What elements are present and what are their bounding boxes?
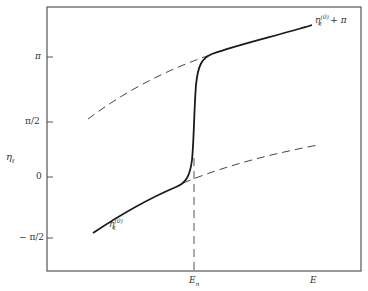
phase-shift-chart: [0, 0, 368, 291]
annotation-lower-sup: (0): [114, 217, 123, 224]
x-label-en-main: E: [189, 275, 196, 285]
y-axis-label-sub: ℓ: [12, 157, 15, 164]
x-label-en-sub: n: [196, 280, 200, 287]
tick-label-pi: π: [35, 52, 41, 61]
dashed-curve-eta0: [183, 145, 318, 183]
y-ticks: [47, 57, 53, 238]
dashed-curve-eta0-plus-pi: [88, 55, 210, 119]
solid-curve-phase-shift: [93, 25, 312, 233]
annotation-upper-tail: + π: [327, 15, 346, 25]
x-label-e: E: [310, 276, 317, 285]
annotation-eta0: η(0)ℓ: [109, 220, 115, 229]
tick-label-zero: 0: [36, 172, 42, 181]
annotation-eta0-plus-pi: η(0)ℓ + π: [315, 16, 347, 25]
y-axis-label: ηℓ: [6, 152, 15, 162]
tick-label-neg-pi-half: − π/2: [19, 233, 44, 242]
tick-label-pi-half: π/2: [25, 117, 40, 126]
x-label-en: En: [189, 276, 199, 285]
